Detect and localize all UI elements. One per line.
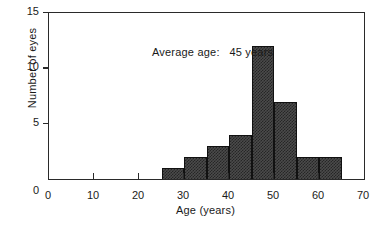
y-axis-ticks: 051015: [0, 12, 48, 178]
x-tick-mark: [228, 173, 229, 179]
y-tick-label: 10: [27, 61, 39, 72]
y-tick-label: 15: [27, 6, 39, 17]
x-tick-label: 20: [124, 190, 152, 201]
x-tick-mark: [138, 173, 139, 179]
x-tick-label: 0: [34, 190, 62, 201]
x-tick-label: 10: [79, 190, 107, 201]
average-age-annotation: Average age: 45 years: [152, 46, 273, 58]
x-tick-mark: [183, 173, 184, 179]
histogram-bar: [184, 157, 207, 179]
histogram-bar: [319, 157, 342, 179]
x-tick-label: 40: [214, 190, 242, 201]
x-axis-ticks: 010203040506070: [48, 179, 363, 203]
histogram-figure: Number of eyes 051015 Average age: 45 ye…: [0, 0, 380, 227]
histogram-bar: [207, 146, 230, 179]
histogram-bar: [162, 168, 185, 179]
x-tick-mark: [318, 173, 319, 179]
histogram-bar: [252, 46, 275, 179]
x-axis-label: Age (years): [48, 204, 363, 216]
x-tick-mark: [93, 173, 94, 179]
histogram-bar: [297, 157, 320, 179]
histogram-bar: [274, 102, 297, 179]
x-tick-label: 30: [169, 190, 197, 201]
y-tick-label: 5: [33, 117, 39, 128]
x-tick-label: 60: [304, 190, 332, 201]
x-tick-mark: [273, 173, 274, 179]
plot-area: Average age: 45 years: [48, 12, 365, 180]
histogram-bar: [229, 135, 252, 179]
x-tick-label: 50: [259, 190, 287, 201]
x-tick-label: 70: [349, 190, 377, 201]
